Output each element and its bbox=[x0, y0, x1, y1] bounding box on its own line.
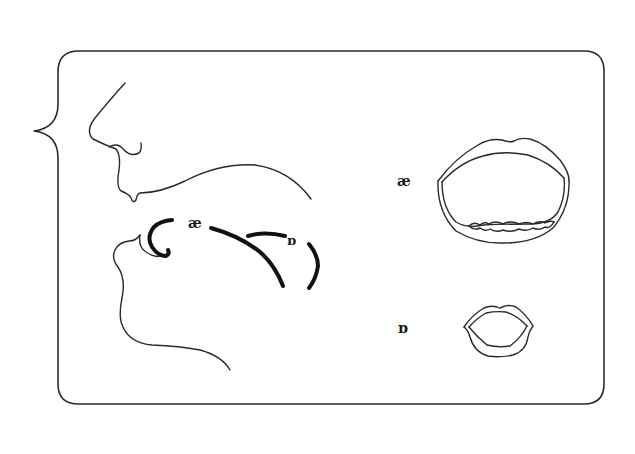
face-profile-lower bbox=[114, 235, 230, 370]
mouth-ae-front bbox=[438, 138, 569, 243]
label-ae-front: æ bbox=[397, 173, 411, 189]
frame-with-brace bbox=[34, 51, 604, 404]
vowel-articulation-diagram: æ ɒ æ ɒ bbox=[0, 0, 635, 454]
label-open-o-sagittal: ɒ bbox=[287, 233, 296, 248]
sagittal-labels: æ ɒ bbox=[188, 215, 296, 248]
label-ae-sagittal: æ bbox=[188, 215, 202, 231]
label-open-o-front: ɒ bbox=[398, 320, 408, 336]
front-labels: æ ɒ bbox=[397, 173, 411, 336]
face-profile-upper bbox=[89, 83, 311, 202]
tongue-positions bbox=[149, 220, 318, 288]
mouth-open-o-front bbox=[464, 306, 533, 357]
